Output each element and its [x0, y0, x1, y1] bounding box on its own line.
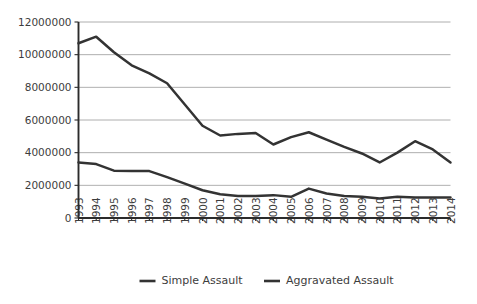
x-axis-tick-label: 2011 [391, 197, 403, 224]
x-axis-tick-label: 1994 [90, 197, 102, 224]
x-axis-tick-label: 2012 [409, 197, 421, 224]
y-axis-tick-label: 0 [65, 212, 72, 224]
x-axis-tick-label: 1998 [161, 197, 173, 224]
x-axis-tick-label: 1999 [179, 197, 191, 224]
x-axis-tick-label: 2009 [356, 197, 368, 224]
chart-legend: Simple AssaultAggravated Assault [140, 274, 395, 287]
y-axis-tick-label: 12000000 [18, 16, 71, 28]
x-axis-tick-label: 2005 [285, 197, 297, 224]
x-axis-tick-label: 2003 [250, 197, 262, 224]
x-axis-tick-label: 2007 [321, 197, 333, 224]
x-axis-tick-label: 2004 [267, 197, 279, 224]
y-axis-tick-label: 6000000 [25, 114, 72, 126]
gridlines-group [75, 22, 451, 218]
legend-label-simple-assault: Simple Assault [162, 274, 244, 287]
series-line-aggravated-assault [79, 162, 451, 198]
legend-label-aggravated-assault: Aggravated Assault [286, 274, 394, 287]
x-axis-tick-label: 2014 [445, 197, 457, 224]
y-axis-tick-label: 10000000 [18, 48, 71, 60]
x-axis-tick-label: 2008 [338, 197, 350, 224]
x-axis-tick-label: 2000 [197, 197, 209, 224]
x-axis-tick-label: 2002 [232, 197, 244, 224]
y-axis-tick-labels: 1200000010000000800000060000004000000200… [18, 16, 71, 224]
x-axis-tick-labels: 1993199419951996199719981999200020012002… [73, 197, 457, 224]
y-axis-tick-label: 4000000 [25, 146, 72, 158]
x-axis-tick-label: 1996 [126, 197, 138, 224]
data-series-group [79, 37, 451, 199]
chart-canvas: 1200000010000000800000060000004000000200… [0, 0, 477, 304]
series-line-simple-assault [79, 37, 451, 163]
assault-trend-line-chart: 1200000010000000800000060000004000000200… [0, 0, 477, 304]
x-axis-tick-label: 1997 [143, 197, 155, 224]
x-axis-tick-label: 2006 [303, 197, 315, 224]
x-axis-tick-label: 2013 [427, 197, 439, 224]
y-axis-tick-label: 2000000 [25, 179, 72, 191]
x-axis-tick-label: 2001 [214, 197, 226, 224]
y-axis-tick-label: 8000000 [25, 81, 72, 93]
x-axis-tick-label: 2010 [374, 197, 386, 224]
x-axis-tick-label: 1995 [108, 197, 120, 224]
